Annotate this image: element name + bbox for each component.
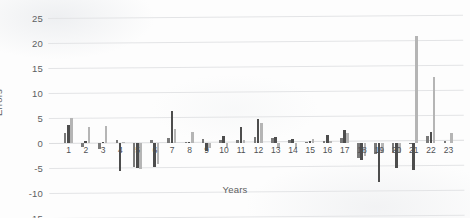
x-tick-label: 14 xyxy=(288,145,297,155)
bar xyxy=(260,123,263,143)
bar xyxy=(305,142,308,143)
bar xyxy=(312,139,315,144)
bar xyxy=(122,142,125,144)
bar xyxy=(105,126,108,143)
bar xyxy=(185,142,188,144)
bar xyxy=(70,118,73,143)
bar xyxy=(409,143,412,144)
y-tick-label: 20 xyxy=(32,38,43,49)
bar xyxy=(243,140,246,143)
bar xyxy=(329,141,332,143)
bar xyxy=(257,119,260,143)
bar xyxy=(326,135,329,143)
x-tick-label: 16 xyxy=(323,145,332,155)
bar xyxy=(309,141,312,143)
bar xyxy=(430,132,433,143)
bar xyxy=(64,133,67,143)
y-tick-label: 15 xyxy=(32,63,43,74)
bar xyxy=(174,129,177,144)
bar xyxy=(433,77,436,143)
x-tick-label: 4 xyxy=(118,145,123,155)
y-tick-label: 25 xyxy=(32,13,43,24)
x-tick-label: 19 xyxy=(375,145,384,155)
bar xyxy=(202,139,205,143)
x-tick-label: 17 xyxy=(340,145,349,155)
bar xyxy=(274,137,277,144)
x-tick-label: 8 xyxy=(187,145,192,155)
x-tick-label: 6 xyxy=(153,145,158,155)
bar xyxy=(171,111,174,144)
bar xyxy=(291,139,294,144)
x-tick-label: 15 xyxy=(306,145,315,155)
x-tick-label: 20 xyxy=(392,145,401,155)
x-tick-label: 9 xyxy=(204,145,209,155)
bar xyxy=(191,132,194,143)
bar xyxy=(240,127,243,143)
y-tick-label: 0 xyxy=(38,138,43,149)
x-tick-label: 22 xyxy=(426,145,435,155)
bar xyxy=(444,141,447,144)
bar xyxy=(167,138,170,143)
bar xyxy=(288,140,291,143)
x-tick-label: 23 xyxy=(444,145,453,155)
x-tick-label: 12 xyxy=(254,145,263,155)
y-tick-label: -5 xyxy=(34,163,43,174)
bar xyxy=(323,141,326,144)
bar xyxy=(236,140,239,143)
bar xyxy=(346,133,349,144)
x-tick-label: 3 xyxy=(101,145,106,155)
bar xyxy=(254,137,257,143)
bar xyxy=(188,142,191,143)
bar xyxy=(88,127,91,143)
y-tick-label: 10 xyxy=(32,88,43,99)
bar xyxy=(343,130,346,143)
x-tick-label: 7 xyxy=(170,145,175,155)
x-tick-label: 1 xyxy=(66,145,71,155)
bar xyxy=(219,140,222,144)
bar xyxy=(415,36,418,144)
y-tick-label: 5 xyxy=(38,113,43,124)
x-tick-label: 13 xyxy=(271,145,280,155)
bar xyxy=(222,136,225,143)
x-tick-label: 21 xyxy=(409,145,418,155)
bar xyxy=(150,140,153,144)
bar xyxy=(84,141,87,143)
bar xyxy=(116,140,119,143)
x-tick-label: 5 xyxy=(135,145,140,155)
y-tick-label: -15 xyxy=(29,213,43,219)
bar xyxy=(67,125,70,143)
x-tick-label: 18 xyxy=(357,145,366,155)
x-axis-title: Years xyxy=(0,184,470,195)
x-tick-label: 10 xyxy=(219,145,228,155)
bar xyxy=(450,133,453,143)
x-tick-label: 11 xyxy=(237,145,246,155)
bar xyxy=(340,138,343,143)
bar-chart: Errors 2520151050-5-10-15 12345678910111… xyxy=(0,0,470,218)
bar xyxy=(271,138,274,144)
bar xyxy=(426,136,429,144)
x-tick-label: 2 xyxy=(84,145,89,155)
bar xyxy=(102,142,105,144)
